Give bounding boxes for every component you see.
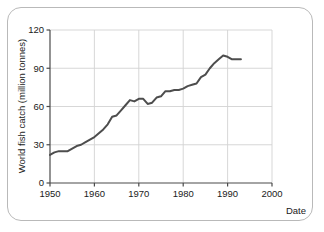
line-chart: 0306090120 195019601970198019902000 Date… (0, 0, 324, 232)
y-axis-title: World fish catch (million tonnes) (16, 39, 27, 173)
x-tick-label: 2000 (261, 188, 282, 199)
x-tick-labels: 195019601970198019902000 (39, 188, 282, 199)
tick-marks (47, 30, 273, 187)
x-tick-label: 1960 (84, 188, 105, 199)
y-tick-label: 90 (33, 63, 44, 74)
chart-container: 0306090120 195019601970198019902000 Date… (0, 0, 324, 232)
y-tick-label: 0 (39, 177, 44, 188)
x-tick-label: 1990 (217, 188, 238, 199)
x-tick-label: 1950 (39, 188, 60, 199)
x-tick-label: 1980 (173, 188, 194, 199)
grid-lines (50, 30, 272, 183)
y-tick-label: 60 (33, 101, 44, 112)
y-tick-label: 30 (33, 139, 44, 150)
y-tick-labels: 0306090120 (28, 24, 44, 188)
y-tick-label: 120 (28, 24, 44, 35)
x-tick-label: 1970 (128, 188, 149, 199)
series-world-fish-catch (50, 56, 241, 155)
x-axis-title: Date (286, 205, 306, 216)
